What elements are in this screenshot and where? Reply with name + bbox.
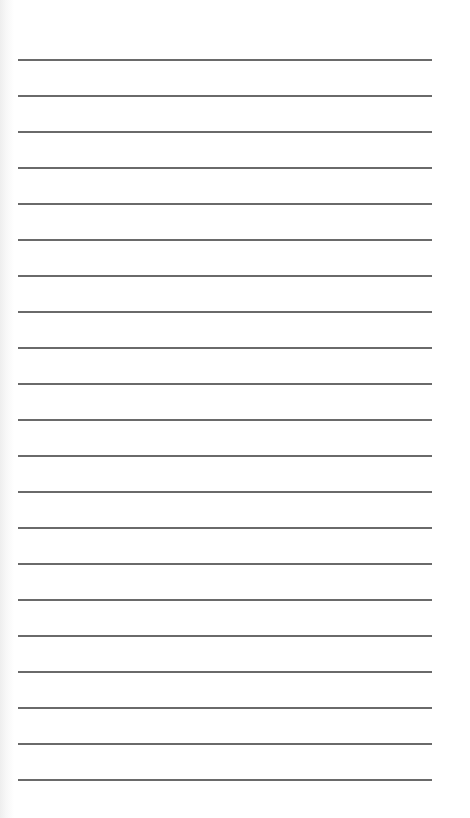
ruled-line: [18, 167, 432, 169]
ruled-line: [18, 95, 432, 97]
ruled-line: [18, 347, 432, 349]
ruled-line: [18, 779, 432, 781]
ruled-paper-page: [0, 0, 470, 818]
ruled-line: [18, 743, 432, 745]
ruled-line: [18, 671, 432, 673]
ruled-line: [18, 131, 432, 133]
ruled-lines-container: [0, 0, 470, 818]
ruled-line: [18, 563, 432, 565]
ruled-line: [18, 455, 432, 457]
ruled-line: [18, 419, 432, 421]
ruled-line: [18, 599, 432, 601]
ruled-line: [18, 527, 432, 529]
ruled-line: [18, 59, 432, 61]
ruled-line: [18, 383, 432, 385]
ruled-line: [18, 707, 432, 709]
ruled-line: [18, 635, 432, 637]
ruled-line: [18, 311, 432, 313]
ruled-line: [18, 203, 432, 205]
ruled-line: [18, 239, 432, 241]
ruled-line: [18, 491, 432, 493]
ruled-line: [18, 275, 432, 277]
